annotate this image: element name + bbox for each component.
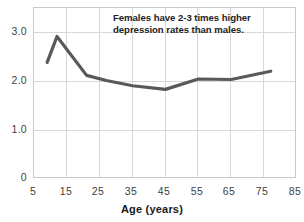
x-tick-label-15: 15: [51, 186, 81, 197]
x-tick-label-35: 35: [116, 186, 146, 197]
x-tick-label-75: 75: [247, 186, 277, 197]
y-tick-label-1: 1.0: [0, 124, 27, 135]
x-tick-label-65: 65: [214, 186, 244, 197]
y-tick-label-2: 2.0: [0, 75, 27, 86]
x-axis-title: Age (years): [0, 203, 304, 215]
y-tick-label-3: 3.0: [0, 26, 27, 37]
y-tick-label-0: 0: [0, 172, 27, 183]
depression-ratio-line-chart: 3.0 2.0 1.0 0 Females have 2-3 times hig…: [0, 0, 304, 222]
x-tick-label-25: 25: [83, 186, 113, 197]
x-tick-label-45: 45: [149, 186, 179, 197]
x-tick-label-5: 5: [18, 186, 48, 197]
x-tick-label-85: 85: [280, 186, 304, 197]
chart-annotation: Females have 2-3 times higher depression…: [113, 12, 298, 35]
x-tick-label-55: 55: [182, 186, 212, 197]
